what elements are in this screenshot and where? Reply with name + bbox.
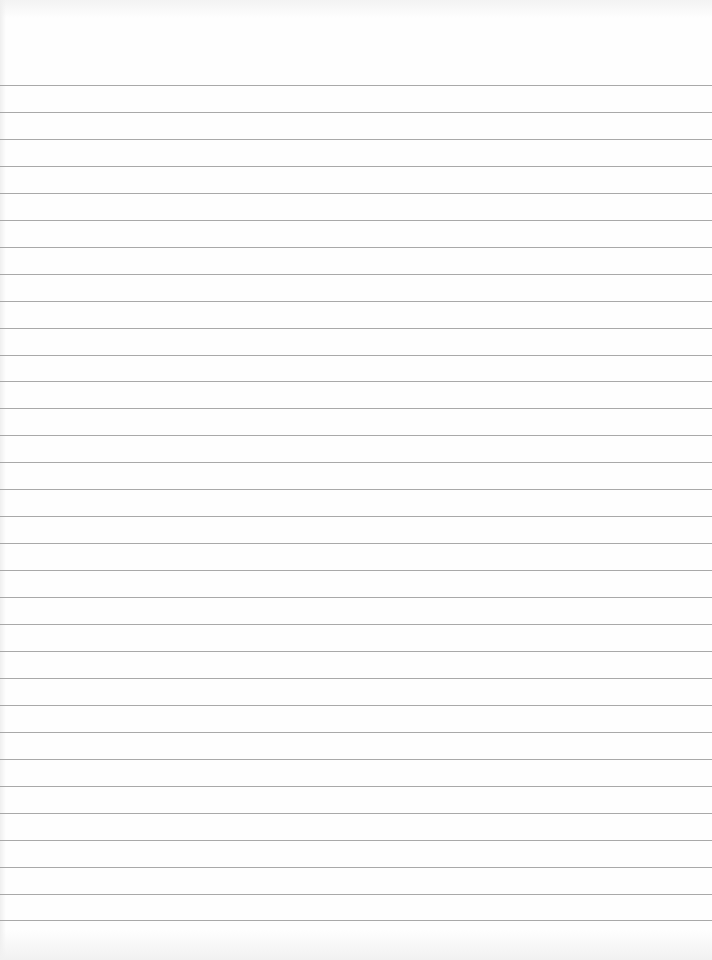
ruled-line (0, 462, 712, 463)
ruled-line (0, 732, 712, 733)
ruled-line (0, 435, 712, 436)
page-bottom-edge-shadow (0, 930, 712, 960)
ruled-line (0, 651, 712, 652)
ruled-line (0, 139, 712, 140)
ruled-line (0, 705, 712, 706)
ruled-line (0, 193, 712, 194)
ruled-line (0, 85, 712, 86)
ruled-line (0, 328, 712, 329)
ruled-line (0, 867, 712, 868)
ruled-line (0, 597, 712, 598)
ruled-line (0, 570, 712, 571)
ruled-line (0, 166, 712, 167)
ruled-line (0, 516, 712, 517)
lined-paper-page (0, 0, 712, 960)
ruled-line (0, 301, 712, 302)
ruled-line (0, 247, 712, 248)
ruled-line (0, 624, 712, 625)
ruled-line (0, 678, 712, 679)
ruled-line (0, 786, 712, 787)
ruled-line (0, 813, 712, 814)
ruled-lines (0, 0, 712, 960)
ruled-line (0, 489, 712, 490)
ruled-line (0, 381, 712, 382)
ruled-line (0, 543, 712, 544)
ruled-line (0, 920, 712, 921)
ruled-line (0, 759, 712, 760)
ruled-line (0, 220, 712, 221)
ruled-line (0, 274, 712, 275)
ruled-line (0, 112, 712, 113)
ruled-line (0, 840, 712, 841)
ruled-line (0, 355, 712, 356)
ruled-line (0, 894, 712, 895)
ruled-line (0, 408, 712, 409)
